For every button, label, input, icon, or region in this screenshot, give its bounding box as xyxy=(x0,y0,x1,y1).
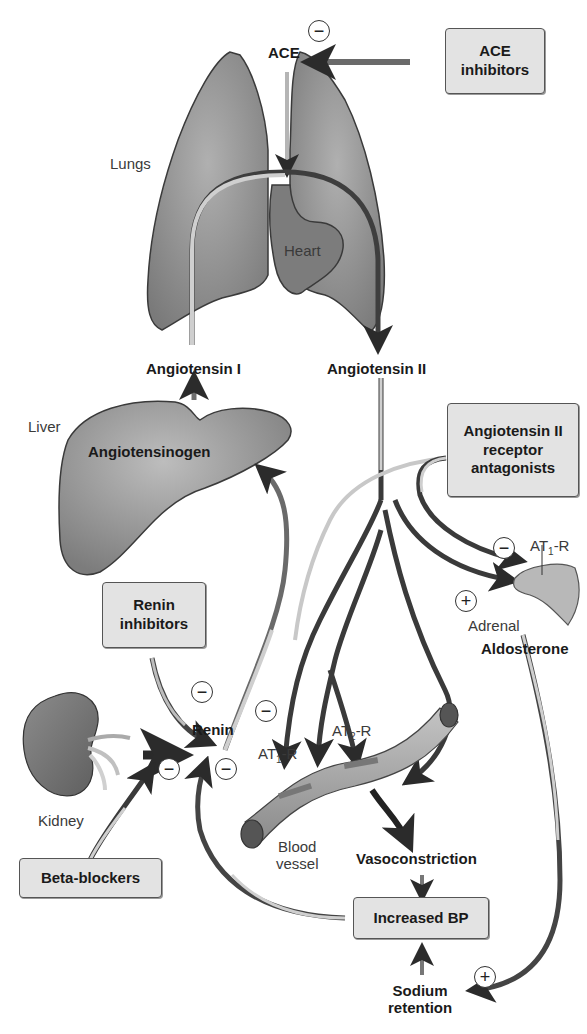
ace-label: ACE xyxy=(268,44,300,61)
heart-label: Heart xyxy=(284,242,321,259)
arb-line2: receptor xyxy=(463,441,562,460)
arb-line-vessel xyxy=(295,458,446,640)
sodium-retention-line1: Sodium xyxy=(388,982,452,999)
sodium-retention-label: Sodium retention xyxy=(388,982,452,1017)
adrenal-plus-sign: + xyxy=(455,590,477,612)
at1-vessel-suffix: -R xyxy=(282,745,298,762)
sodium-plus-sign: + xyxy=(474,966,496,988)
angiotensin-i-label: Angiotensin I xyxy=(146,360,241,377)
lungs-label: Lungs xyxy=(110,155,151,172)
renin-inhibitors-line2: inhibitors xyxy=(120,615,188,634)
liver-label: Liver xyxy=(28,418,61,435)
sodium-retention-line2: retention xyxy=(388,999,452,1016)
arb-box: Angiotensin II receptor antagonists xyxy=(447,403,579,497)
increased-bp-box: Increased BP xyxy=(353,897,489,939)
beta-blocker-minus-sign: − xyxy=(158,758,180,780)
adrenal-illustration xyxy=(513,564,578,625)
vasoconstriction-label: Vasoconstriction xyxy=(356,850,477,867)
ace-inhibitors-box: ACE inhibitors xyxy=(445,28,545,94)
angiotensin-ii-label: Angiotensin II xyxy=(327,360,426,377)
at2-vessel-label: AT2-R xyxy=(332,722,371,743)
angiotensinogen-label: Angiotensinogen xyxy=(88,443,211,460)
arb-line1: Angiotensin II xyxy=(463,422,562,441)
liver-illustration xyxy=(59,401,291,574)
increased-bp-text: Increased BP xyxy=(373,909,468,928)
ace-inhibitors-line2: inhibitors xyxy=(461,61,529,80)
at1-adrenal-base: AT xyxy=(530,537,548,554)
at1-vessel-base: AT xyxy=(258,745,276,762)
blood-vessel-line1: Blood xyxy=(276,838,319,855)
at1-adrenal-suffix: -R xyxy=(554,537,570,554)
renin-inhibitor-minus-sign: − xyxy=(191,681,213,703)
at1-vessel-minus-sign: − xyxy=(255,700,277,722)
beta-blockers-text: Beta-blockers xyxy=(41,869,140,888)
renin-inhibitors-box: Renin inhibitors xyxy=(102,582,206,648)
ace-inhibitors-line1: ACE xyxy=(461,42,529,61)
adrenal-minus-sign: − xyxy=(493,537,515,559)
blood-vessel-line2: vessel xyxy=(276,855,319,872)
bp-feedback-minus-sign: − xyxy=(215,758,237,780)
adrenal-label: Adrenal xyxy=(468,617,520,634)
arb-line3: antagonists xyxy=(463,459,562,478)
renin-label: Renin xyxy=(192,721,234,738)
ace-minus-sign: − xyxy=(308,20,330,42)
blood-vessel-label: Blood vessel xyxy=(276,838,319,873)
aldosterone-label: Aldosterone xyxy=(481,640,569,657)
kidney-illustration xyxy=(23,693,130,796)
at2-vessel-suffix: -R xyxy=(356,722,372,739)
at2-vessel-base: AT xyxy=(332,722,350,739)
beta-blockers-box: Beta-blockers xyxy=(19,858,162,898)
at1-vessel-label: AT1-R xyxy=(258,745,297,766)
vessel-to-vasoconstriction-arrow xyxy=(372,790,408,842)
renin-inhibitors-line1: Renin xyxy=(120,596,188,615)
at1-adrenal-label: AT1-R xyxy=(530,537,569,558)
kidney-label: Kidney xyxy=(38,812,84,829)
